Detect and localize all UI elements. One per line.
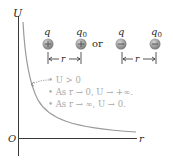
origin-label: O	[8, 133, 16, 144]
note-2: • As r → 0, U → +∞.	[48, 87, 133, 97]
negative-charge-q0	[150, 39, 161, 50]
charge-q0-label-2: q0	[151, 26, 162, 39]
negative-charge-q	[116, 39, 127, 50]
y-axis-label: U	[13, 7, 23, 20]
charge-q-label: q	[44, 26, 50, 37]
or-connector: or	[92, 38, 103, 49]
charge-pair-negative: q q0 r	[116, 26, 162, 64]
x-axis-label: r	[139, 133, 145, 144]
note-1: • U > 0	[48, 75, 81, 85]
charge-pair-positive: q q0 r	[43, 26, 87, 64]
positive-charge-q0	[76, 39, 87, 50]
note-3: • As r → ∞, U → 0.	[48, 99, 126, 109]
separation-label-2: r	[135, 54, 140, 64]
positive-charge-q	[43, 39, 54, 50]
separation-label-1: r	[61, 54, 66, 64]
notes: • U > 0 • As r → 0, U → +∞. • As r → ∞, …	[48, 75, 133, 109]
diagram-canvas: U O r q q0	[0, 0, 173, 163]
note-pointer	[31, 80, 49, 86]
charge-q-label-2: q	[118, 26, 124, 37]
charge-q0-label: q0	[76, 26, 87, 39]
potential-energy-diagram: U O r q q0	[0, 0, 173, 163]
